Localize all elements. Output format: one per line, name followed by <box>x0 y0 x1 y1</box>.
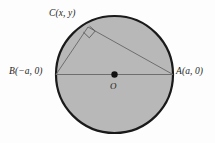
geometry-figure: C(x, y) B(−a, 0) A(a, 0) O <box>0 0 215 143</box>
vertex-label-a: A(a, 0) <box>176 67 203 77</box>
center-point-dot <box>111 71 117 77</box>
vertex-label-c: C(x, y) <box>49 9 76 19</box>
center-label-o: O <box>110 82 117 91</box>
vertex-label-b: B(−a, 0) <box>9 67 43 77</box>
